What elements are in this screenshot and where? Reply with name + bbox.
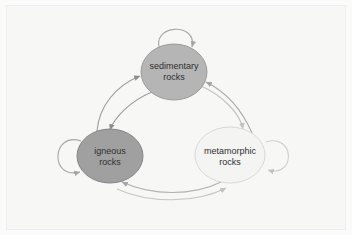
edge-igneous-to-metamorphic	[117, 188, 226, 200]
rock-cycle-diagram-page: sedimentary rocks igneous rocks metamorp…	[0, 0, 352, 235]
node-igneous[interactable]	[77, 129, 143, 183]
diagram-canvas	[0, 0, 352, 235]
edge-igneous-to-sedimentary	[97, 76, 140, 131]
edge-metamorphic-to-igneous	[122, 182, 221, 193]
metamorphic-self-loop	[266, 141, 288, 171]
edge-metamorphic-to-sedimentary	[206, 82, 252, 133]
edge-sedimentary-to-igneous	[110, 92, 152, 130]
node-metamorphic[interactable]	[195, 127, 265, 183]
node-sedimentary[interactable]	[141, 44, 207, 100]
